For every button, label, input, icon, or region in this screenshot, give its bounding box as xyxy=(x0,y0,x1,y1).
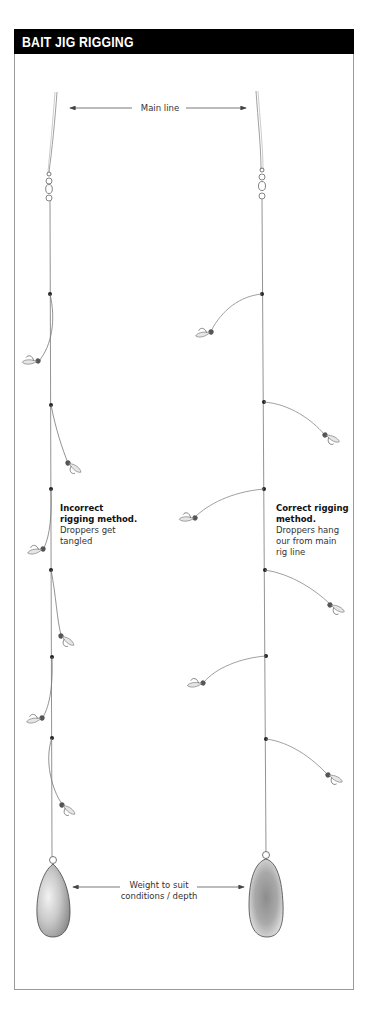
correct-body-line-1: Droppers hang xyxy=(276,525,352,536)
incorrect-body-line-1: Droppers get xyxy=(60,525,140,536)
dropper xyxy=(27,655,54,727)
weight-text-line-1: Weight to suit xyxy=(118,880,200,891)
correct-body-line-2: our from main xyxy=(276,536,352,547)
dropper xyxy=(179,487,266,527)
weight-text-line-2: conditions / depth xyxy=(118,891,200,902)
sinker-right xyxy=(249,852,283,938)
dropper xyxy=(196,292,264,341)
dropper xyxy=(262,400,339,448)
dropper xyxy=(187,654,268,692)
correct-body-line-3: rig line xyxy=(276,547,352,558)
main-line-text: Main line xyxy=(141,103,179,113)
rig-line-right xyxy=(262,199,266,855)
dropper xyxy=(22,292,53,370)
swivel-right xyxy=(259,168,266,199)
main-line-left xyxy=(49,92,57,172)
dropper xyxy=(264,737,342,788)
sinker-left xyxy=(37,857,70,938)
incorrect-body-line-2: tangled xyxy=(60,536,140,547)
dropper xyxy=(28,487,53,558)
correct-heading-line-1: Correct rigging xyxy=(276,503,352,514)
correct-method-label: Correct rigging method. Droppers hang ou… xyxy=(276,503,352,558)
main-line-right xyxy=(256,91,261,169)
weight-label: Weight to suit conditions / depth xyxy=(118,880,200,902)
incorrect-method-label: Incorrect rigging method. Droppers get t… xyxy=(60,503,140,547)
incorrect-heading-line-1: Incorrect xyxy=(60,503,140,514)
dropper xyxy=(263,568,344,618)
swivel-left xyxy=(46,172,53,201)
correct-heading-line-2: method. xyxy=(276,514,352,525)
dropper xyxy=(49,403,81,476)
main-line-label: Main line xyxy=(135,103,185,114)
incorrect-heading-line-2: rigging method. xyxy=(60,514,140,525)
dropper xyxy=(49,568,74,649)
dropper xyxy=(49,736,75,818)
